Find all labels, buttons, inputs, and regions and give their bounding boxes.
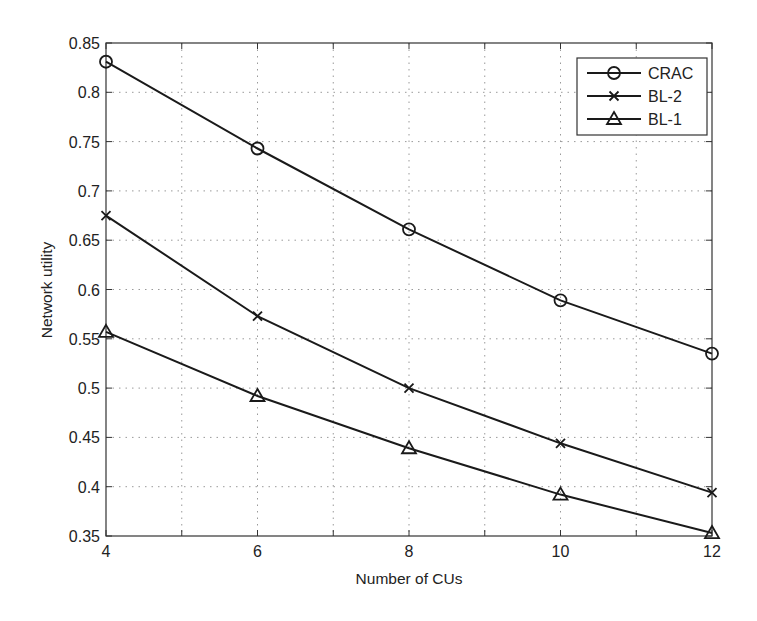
x-axis-title: Number of CUs [356, 570, 463, 587]
y-tick-label: 0.5 [78, 380, 100, 397]
y-tick-label: 0.75 [69, 134, 100, 151]
y-tick-label: 0.65 [69, 232, 100, 249]
series-line-bl-2 [106, 216, 712, 493]
series-bl-2 [102, 211, 717, 497]
legend: CRACBL-2BL-1 [577, 58, 707, 135]
y-tick-label: 0.4 [78, 479, 100, 496]
series-bl-1 [99, 325, 719, 538]
x-axis-tick-labels: 4681012 [102, 543, 721, 560]
y-tick-label: 0.55 [69, 331, 100, 348]
legend-label: BL-1 [648, 111, 682, 128]
y-axis-title: Network utility [38, 242, 55, 339]
y-tick-label: 0.6 [78, 282, 100, 299]
data-point-x-marker-icon [253, 312, 262, 321]
y-tick-label: 0.45 [69, 429, 100, 446]
line-chart: 4681012 0.350.40.450.50.550.60.650.70.75… [0, 0, 757, 621]
y-tick-label: 0.8 [78, 84, 100, 101]
y-tick-label: 0.85 [69, 35, 100, 52]
x-tick-label: 10 [552, 543, 570, 560]
y-tick-label: 0.35 [69, 528, 100, 545]
x-tick-label: 4 [102, 543, 111, 560]
x-tick-label: 12 [703, 543, 721, 560]
legend-label: BL-2 [648, 88, 682, 105]
y-axis-tick-labels: 0.350.40.450.50.550.60.650.70.750.80.85 [69, 35, 100, 545]
legend-label: CRAC [648, 65, 693, 82]
x-tick-label: 8 [405, 543, 414, 560]
x-tick-label: 6 [253, 543, 262, 560]
y-tick-label: 0.7 [78, 183, 100, 200]
